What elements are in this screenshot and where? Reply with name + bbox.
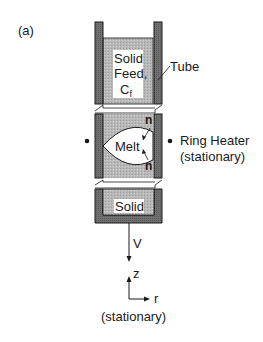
- axis-r-label: r: [154, 291, 159, 306]
- z-axis-arrowhead: [127, 276, 132, 282]
- velocity-label: V: [133, 236, 142, 251]
- solid-feed-label-line1: Solid: [114, 51, 143, 66]
- break-lines-upper: [95, 105, 162, 113]
- axes-note: (stationary): [101, 309, 166, 324]
- tube-wall-right-middle: [154, 114, 162, 178]
- solid-label: Solid: [115, 199, 144, 214]
- ring-heater-label: Ring Heater: [180, 133, 250, 148]
- bottom-section: Solid: [95, 189, 162, 223]
- axis-z-label: z: [133, 266, 140, 281]
- ring-heater-note: (stationary): [180, 149, 245, 164]
- zone-melting-diagram: (a) Solid Feed, Cf Tube Melt n n Ring He…: [0, 0, 263, 342]
- tube-wall-left-middle: [95, 114, 103, 178]
- tube-wall-left-top: [95, 22, 103, 104]
- velocity-arrowhead: [127, 256, 132, 262]
- r-axis-arrowhead: [144, 297, 150, 302]
- normal-label-bottom: n: [145, 159, 152, 173]
- top-section: Solid Feed, Cf Tube: [95, 22, 199, 104]
- tube-wall-right-top: [154, 22, 162, 104]
- panel-label: (a): [18, 23, 34, 38]
- middle-section: Melt n n Ring Heater (stationary): [85, 113, 250, 178]
- break-lines-lower: [95, 180, 162, 188]
- ring-heater-dot-right: [168, 139, 173, 144]
- ring-heater-dot-left: [85, 139, 90, 144]
- solid-feed-label-line2: Feed,: [114, 66, 147, 81]
- coordinate-axes: z r (stationary): [101, 266, 166, 324]
- melt-label: Melt: [115, 139, 140, 154]
- tube-label: Tube: [170, 59, 199, 74]
- normal-label-top: n: [145, 113, 152, 127]
